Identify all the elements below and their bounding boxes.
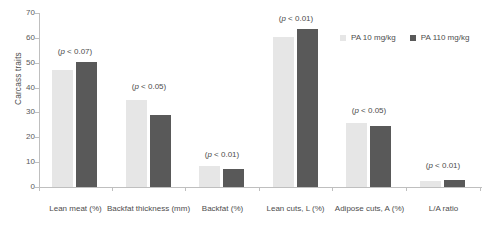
y-tick-label-30: 30: [11, 107, 35, 116]
x-tick-mark-4: [332, 187, 333, 191]
bar-backfat-percent-pa110[interactable]: [223, 169, 244, 187]
p-value-annotation-5: (p < 0.01): [388, 161, 489, 170]
bar-group-lean-cuts: (p < 0.01): [273, 13, 319, 187]
bar-backfat-thickness-pa10[interactable]: [126, 100, 147, 188]
bar-group-backfat-percent: (p < 0.01): [199, 13, 245, 187]
p-value-annotation-0: (p < 0.07): [20, 47, 130, 56]
p-value-annotation-1: (p < 0.05): [94, 82, 204, 91]
bar-lean-meat-pa110[interactable]: [76, 62, 97, 187]
x-axis-line: [39, 187, 482, 188]
legend-swatch-icon-pa-110: [410, 35, 416, 41]
y-tick-mark-10: [35, 162, 39, 163]
bar-la-ratio-pa110[interactable]: [444, 180, 465, 187]
p-value-annotation-2: (p < 0.01): [167, 150, 277, 159]
y-tick-mark-70: [35, 13, 39, 14]
x-tick-mark-1: [112, 187, 113, 191]
legend-item-pa-10[interactable]: PA 10 mg/kg: [340, 33, 396, 42]
bar-la-ratio-pa10[interactable]: [420, 181, 441, 187]
y-tick-label-50: 50: [11, 58, 35, 67]
y-tick-label-20: 20: [11, 132, 35, 141]
bar-adipose-cuts-pa10[interactable]: [346, 123, 367, 187]
y-axis-line: [39, 13, 40, 188]
bar-adipose-cuts-pa110[interactable]: [370, 126, 391, 187]
y-tick-mark-60: [35, 38, 39, 39]
bar-chart: Carcass traits 0 10 20 30 40 50 60 70 (p…: [0, 0, 489, 227]
p-value-annotation-4: (p < 0.05): [314, 106, 424, 115]
bar-lean-meat-pa10[interactable]: [52, 70, 73, 187]
y-tick-label-40: 40: [11, 83, 35, 92]
y-tick-label-70: 70: [11, 8, 35, 17]
bar-group-backfat-thickness: (p < 0.05): [126, 13, 172, 187]
legend-label-pa-10: PA 10 mg/kg: [351, 33, 396, 42]
legend-swatch-icon-pa-10: [340, 35, 346, 41]
bar-backfat-percent-pa10[interactable]: [199, 166, 220, 187]
y-tick-label-10: 10: [11, 157, 35, 166]
x-tick-mark-6: [480, 187, 481, 191]
bar-group-lean-meat: (p < 0.07): [52, 13, 98, 187]
x-tick-mark-3: [259, 187, 260, 191]
y-tick-label-0: 0: [11, 182, 35, 191]
legend-label-pa-110: PA 110 mg/kg: [421, 33, 470, 42]
y-tick-label-60: 60: [11, 33, 35, 42]
x-tick-mark-5: [406, 187, 407, 191]
x-tick-mark-2: [185, 187, 186, 191]
legend: PA 10 mg/kg PA 110 mg/kg: [340, 33, 469, 42]
p-value-annotation-3: (p < 0.01): [241, 14, 351, 23]
y-tick-mark-20: [35, 137, 39, 138]
x-axis-label-la-ratio: L/A ratio: [398, 204, 489, 214]
y-tick-mark-30: [35, 112, 39, 113]
y-tick-mark-40: [35, 88, 39, 89]
bar-lean-cuts-pa10[interactable]: [273, 37, 294, 187]
y-tick-mark-50: [35, 63, 39, 64]
legend-item-pa-110[interactable]: PA 110 mg/kg: [410, 33, 470, 42]
x-tick-mark-0: [39, 187, 40, 191]
